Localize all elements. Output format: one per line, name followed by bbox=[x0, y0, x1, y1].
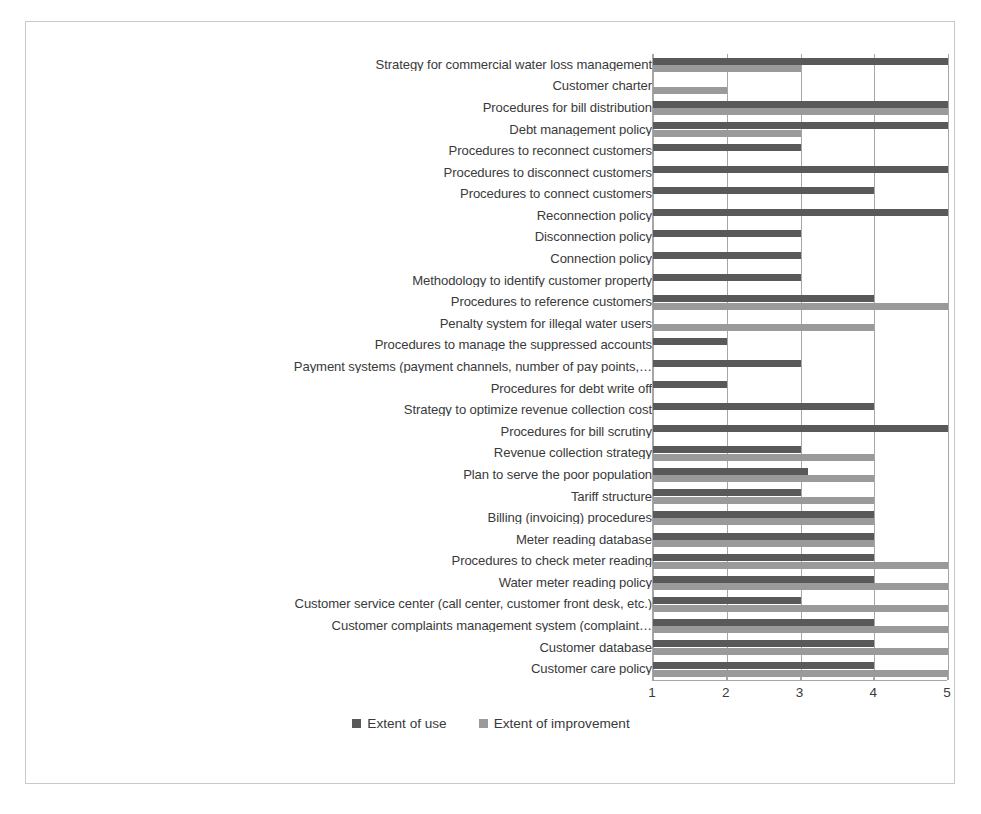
bar-row bbox=[653, 162, 947, 184]
bar-row bbox=[653, 313, 947, 335]
category-label: Methodology to identify customer propert… bbox=[34, 274, 652, 287]
chart-plot-wrapper: Strategy for commercial water loss manag… bbox=[26, 22, 956, 785]
axis-tick-label: 5 bbox=[934, 685, 960, 700]
category-label: Procedures for debt write off bbox=[34, 382, 652, 395]
bar-row bbox=[653, 637, 947, 659]
axis-tick-label: 3 bbox=[787, 685, 813, 700]
category-label: Procedures to check meter reading bbox=[34, 554, 652, 567]
bar-extent-of-improvement bbox=[653, 87, 727, 94]
category-label: Customer service center (call center, cu… bbox=[34, 597, 652, 610]
category-label: Procedures to reconnect customers bbox=[34, 144, 652, 157]
category-label: Procedures to connect customers bbox=[34, 187, 652, 200]
bar-extent-of-use bbox=[653, 576, 874, 583]
category-label: Customer database bbox=[34, 641, 652, 654]
bar-extent-of-improvement bbox=[653, 303, 948, 310]
bar-extent-of-improvement bbox=[653, 648, 948, 655]
bar-extent-of-use bbox=[653, 554, 874, 561]
bar-extent-of-improvement bbox=[653, 65, 801, 72]
axis-tick-label: 1 bbox=[639, 685, 665, 700]
axis-tick-mark bbox=[652, 676, 653, 680]
bar-extent-of-improvement bbox=[653, 583, 948, 590]
bar-extent-of-improvement bbox=[653, 540, 874, 547]
axis-tick-label: 2 bbox=[713, 685, 739, 700]
legend-item: Extent of improvement bbox=[479, 716, 630, 731]
category-label: Strategy for commercial water loss manag… bbox=[34, 58, 652, 71]
bar-extent-of-improvement bbox=[653, 130, 801, 137]
axis-tick-mark bbox=[947, 676, 948, 680]
bar-row bbox=[653, 97, 947, 119]
bar-row bbox=[653, 119, 947, 141]
bar-row bbox=[653, 335, 947, 357]
category-label: Customer care policy bbox=[34, 662, 652, 675]
axis-tick-label: 4 bbox=[860, 685, 886, 700]
category-label: Customer charter bbox=[34, 79, 652, 92]
category-label: Procedures to disconnect customers bbox=[34, 166, 652, 179]
category-label: Plan to serve the poor population bbox=[34, 468, 652, 481]
bar-extent-of-improvement bbox=[653, 324, 874, 331]
category-label: Revenue collection strategy bbox=[34, 446, 652, 459]
bar-row bbox=[653, 270, 947, 292]
bar-extent-of-use bbox=[653, 166, 948, 173]
bar-row bbox=[653, 464, 947, 486]
bar-extent-of-improvement bbox=[653, 605, 948, 612]
chart-figure-frame: Strategy for commercial water loss manag… bbox=[25, 21, 955, 784]
bar-extent-of-improvement bbox=[653, 108, 948, 115]
value-axis-line bbox=[652, 680, 947, 681]
category-label: Procedures for bill scrutiny bbox=[34, 425, 652, 438]
category-label: Meter reading database bbox=[34, 533, 652, 546]
bar-row bbox=[653, 248, 947, 270]
bar-extent-of-use bbox=[653, 144, 801, 151]
bar-extent-of-use bbox=[653, 511, 874, 518]
bar-row bbox=[653, 507, 947, 529]
legend-label: Extent of use bbox=[367, 716, 446, 731]
bar-extent-of-use bbox=[653, 489, 801, 496]
bar-extent-of-use bbox=[653, 252, 801, 259]
bar-row bbox=[653, 443, 947, 465]
category-label: Reconnection policy bbox=[34, 209, 652, 222]
bar-extent-of-use bbox=[653, 381, 727, 388]
chart-legend: Extent of useExtent of improvement bbox=[26, 716, 956, 731]
category-label: Debt management policy bbox=[34, 123, 652, 136]
category-label: Procedures to reference customers bbox=[34, 295, 652, 308]
bar-row bbox=[653, 205, 947, 227]
bar-extent-of-use bbox=[653, 122, 948, 129]
bar-extent-of-use bbox=[653, 425, 948, 432]
axis-tick-mark bbox=[873, 676, 874, 680]
bar-extent-of-use bbox=[653, 230, 801, 237]
bar-row bbox=[653, 140, 947, 162]
bar-row bbox=[653, 529, 947, 551]
bar-extent-of-improvement bbox=[653, 454, 874, 461]
bar-row bbox=[653, 291, 947, 313]
bar-extent-of-use bbox=[653, 446, 801, 453]
bar-extent-of-improvement bbox=[653, 626, 948, 633]
category-label: Connection policy bbox=[34, 252, 652, 265]
bar-extent-of-improvement bbox=[653, 497, 874, 504]
legend-swatch-icon bbox=[352, 719, 361, 728]
category-label: Billing (invoicing) procedures bbox=[34, 511, 652, 524]
bar-row bbox=[653, 550, 947, 572]
category-label: Tariff structure bbox=[34, 490, 652, 503]
bar-extent-of-improvement bbox=[653, 562, 948, 569]
bar-extent-of-use bbox=[653, 209, 948, 216]
legend-label: Extent of improvement bbox=[494, 716, 630, 731]
bar-extent-of-use bbox=[653, 662, 874, 669]
bar-extent-of-use bbox=[653, 187, 874, 194]
bar-extent-of-use bbox=[653, 597, 801, 604]
bar-row bbox=[653, 356, 947, 378]
bar-extent-of-improvement bbox=[653, 475, 874, 482]
plot-canvas bbox=[652, 54, 947, 680]
legend-swatch-icon bbox=[479, 719, 488, 728]
category-label: Procedures to manage the suppressed acco… bbox=[34, 338, 652, 351]
bar-extent-of-use bbox=[653, 468, 808, 475]
bar-extent-of-use bbox=[653, 58, 948, 65]
bar-extent-of-use bbox=[653, 360, 801, 367]
bar-row bbox=[653, 572, 947, 594]
bar-extent-of-use bbox=[653, 640, 874, 647]
bar-extent-of-improvement bbox=[653, 670, 948, 677]
bar-extent-of-use bbox=[653, 533, 874, 540]
bar-extent-of-use bbox=[653, 338, 727, 345]
bar-row bbox=[653, 594, 947, 616]
category-label: Procedures for bill distribution bbox=[34, 101, 652, 114]
category-label: Disconnection policy bbox=[34, 230, 652, 243]
bar-row bbox=[653, 399, 947, 421]
